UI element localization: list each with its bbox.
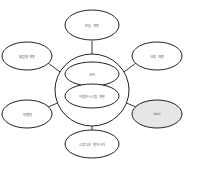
- node-top-right-label: 내장 개발: [150, 54, 163, 59]
- hub-diagram: 모듈 개발 협업형 개발 내장 개발 모델링 DAO 스튜디오 엔지니어 코어 …: [0, 0, 197, 172]
- connector-top-left: [48, 63, 60, 72]
- center-top-label: 코어: [89, 72, 95, 77]
- node-bottom-right-label: DAO: [153, 112, 160, 116]
- node-top-left-label: 협업형 개발: [19, 54, 35, 59]
- center-bottom-label: 어댑터시스템 개발: [79, 94, 104, 99]
- connector-top-right: [124, 63, 136, 72]
- node-top-label: 모듈 개발: [85, 23, 98, 28]
- node-bottom-left-label: 모델링: [23, 112, 32, 117]
- node-bottom-label: 스튜디오 엔지니어: [79, 142, 104, 147]
